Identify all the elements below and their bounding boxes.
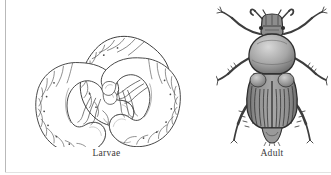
larvae-illustration xyxy=(8,2,213,147)
caption-larvae: Larvae xyxy=(0,148,213,158)
beetle-elytra xyxy=(247,73,297,128)
bottom-horizontal-rule xyxy=(5,172,331,173)
beetle-pronotum xyxy=(249,34,295,74)
left-vertical-rule xyxy=(5,0,6,172)
caption-adult: Adult xyxy=(216,148,328,158)
illustration-plate: Larvae Adult xyxy=(0,0,331,175)
beetle-pygidium xyxy=(262,128,282,146)
adult-beetle-illustration xyxy=(216,4,328,146)
